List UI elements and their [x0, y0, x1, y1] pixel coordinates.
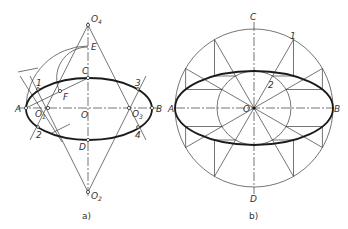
point-1: [37, 88, 40, 91]
label-d-b: D: [250, 194, 257, 204]
label-a: A: [14, 104, 21, 114]
figure-a: O4 E C F A O1 O O3 B D O2 1 2 3 4 a): [14, 14, 162, 221]
label-c-b: C: [250, 12, 257, 22]
label-o-b: O: [243, 104, 250, 114]
bisector-tick-upper: [18, 68, 38, 72]
label-point-2: 2: [36, 130, 42, 140]
label-b: B: [156, 104, 162, 114]
label-b-b: B: [334, 104, 340, 114]
label-point-1: 1: [36, 78, 42, 88]
point-o3: [127, 106, 130, 109]
label-e: E: [91, 42, 97, 52]
label-f: F: [63, 92, 69, 102]
figure-b: C A O B D 1 2 b): [167, 12, 340, 221]
point-o2: [86, 190, 89, 193]
point-4: [137, 126, 140, 129]
label-o: O: [81, 110, 88, 120]
ellipse-construction-diagram: O4 E C F A O1 O O3 B D O2 1 2 3 4 a): [0, 0, 348, 229]
point-o4: [86, 23, 89, 26]
point-o1: [46, 106, 49, 109]
point-d: [86, 138, 89, 141]
label-a-b: A: [167, 104, 174, 114]
point-b: [150, 106, 153, 109]
point-o-b: [252, 106, 255, 109]
label-o2: O2: [91, 191, 102, 202]
point-f: [58, 89, 61, 92]
label-point-4: 4: [135, 130, 141, 140]
point-a: [24, 106, 27, 109]
label-c: C: [82, 66, 89, 76]
label-o3: O3: [132, 109, 143, 120]
caption-b: b): [249, 211, 258, 221]
point-3: [137, 88, 140, 91]
point-2: [37, 126, 40, 129]
label-point-1-b: 1: [290, 31, 296, 41]
label-point-3: 3: [135, 78, 141, 88]
bisector-tick-lower: [50, 124, 70, 134]
label-d: D: [79, 142, 86, 152]
caption-a: a): [82, 211, 91, 221]
label-o4: O4: [91, 14, 102, 25]
label-o1: O1: [35, 109, 46, 120]
label-point-2-b: 2: [268, 80, 274, 90]
point-c: [86, 76, 89, 79]
